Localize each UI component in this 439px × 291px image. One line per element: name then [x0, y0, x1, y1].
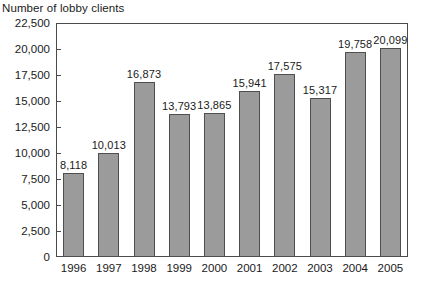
bar[interactable]: [310, 98, 331, 257]
bar[interactable]: [98, 153, 119, 257]
y-axis-tick-label: 5,000: [21, 199, 50, 211]
bar[interactable]: [345, 52, 366, 257]
x-axis-tick-label: 1997: [91, 262, 126, 274]
bar-value-label: 19,758: [338, 38, 372, 50]
x-axis-tick-label: 1996: [56, 262, 91, 274]
bar-group: 15,317: [302, 23, 337, 257]
bar-group: 16,873: [126, 23, 161, 257]
bar-value-label: 20,099: [373, 34, 407, 46]
bar[interactable]: [274, 74, 295, 257]
bar-value-label: 8,118: [60, 159, 87, 171]
bar-group: 19,758: [338, 23, 373, 257]
y-axis-tick-label: 22,500: [15, 17, 50, 29]
bar[interactable]: [380, 48, 401, 257]
y-axis-tick-label: 17,500: [15, 69, 50, 81]
x-axis: 1996199719981999200020012002200320042005: [56, 259, 408, 283]
x-axis-tick-label: 2000: [197, 262, 232, 274]
bars-layer: 8,11810,01316,87313,79313,86515,94117,57…: [56, 23, 408, 257]
y-axis-tick-label: 7,500: [21, 173, 50, 185]
bar-value-label: 15,941: [232, 77, 266, 89]
x-axis-tick-label: 2001: [232, 262, 267, 274]
bar-value-label: 13,793: [162, 100, 196, 112]
bar-value-label: 17,575: [268, 60, 302, 72]
y-axis-tick-label: 2,500: [21, 225, 50, 237]
x-axis-tick-label: 1998: [126, 262, 161, 274]
bar[interactable]: [63, 173, 84, 257]
bar-group: 20,099: [373, 23, 408, 257]
y-axis-tick-label: 0: [44, 251, 50, 263]
y-axis-tick-label: 12,500: [15, 121, 50, 133]
bar[interactable]: [239, 91, 260, 257]
bar-group: 10,013: [91, 23, 126, 257]
bar-group: 13,865: [197, 23, 232, 257]
y-axis-tick-label: 20,000: [15, 43, 50, 55]
x-axis-tick-label: 2004: [338, 262, 373, 274]
bar-group: 8,118: [56, 23, 91, 257]
bar-group: 15,941: [232, 23, 267, 257]
x-axis-tick-label: 2002: [267, 262, 302, 274]
y-axis-tick-label: 15,000: [15, 95, 50, 107]
x-axis-tick-label: 2003: [302, 262, 337, 274]
x-axis-tick-label: 2005: [373, 262, 408, 274]
bar-group: 13,793: [162, 23, 197, 257]
y-axis-tick-label: 10,000: [15, 147, 50, 159]
bar[interactable]: [204, 113, 225, 257]
bar-value-label: 16,873: [127, 68, 161, 80]
bar-value-label: 10,013: [92, 139, 126, 151]
bar-value-label: 15,317: [303, 84, 337, 96]
y-axis: 22,50020,00017,50015,00012,50010,0007,50…: [0, 0, 56, 291]
bar[interactable]: [169, 114, 190, 257]
bar-value-label: 13,865: [197, 99, 231, 111]
x-axis-tick-label: 1999: [162, 262, 197, 274]
bar-group: 17,575: [267, 23, 302, 257]
bar[interactable]: [134, 82, 155, 257]
